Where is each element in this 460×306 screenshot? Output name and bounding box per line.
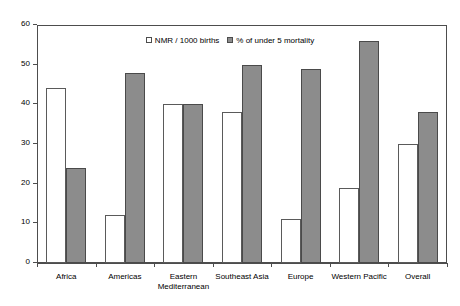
bar-nmr: [46, 88, 66, 263]
x-axis-category-label-line: Eastern: [170, 272, 198, 281]
bar-nmr: [105, 215, 125, 263]
y-tick-mark: [33, 183, 37, 184]
bar-chart: 6050403020100 AfricaAmericasEasternMedit…: [0, 0, 460, 306]
bar-nmr: [281, 219, 301, 263]
legend-label: % of under 5 mortality: [236, 35, 314, 46]
x-axis-category-label-line: Mediterranean: [148, 282, 219, 292]
y-tick-mark: [33, 24, 37, 25]
bar-nmr: [222, 112, 242, 263]
x-axis-category-label-line: Southeast Asia: [215, 272, 268, 281]
y-tick-label: 40: [21, 98, 30, 108]
chart-legend: NMR / 1000 births% of under 5 mortality: [0, 34, 460, 46]
bar-nmr: [163, 104, 183, 263]
legend-label: NMR / 1000 births: [155, 35, 219, 46]
y-tick-label: 30: [21, 138, 30, 148]
y-tick-label: 50: [21, 59, 30, 69]
y-tick-label: 0: [26, 257, 30, 267]
y-tick-label: 20: [21, 178, 30, 188]
x-axis-tick: [447, 263, 448, 267]
bar-under5: [359, 41, 379, 263]
legend-item: % of under 5 mortality: [227, 34, 314, 45]
filled-square-swatch: [227, 37, 233, 43]
x-axis-category-label-line: Africa: [56, 272, 76, 281]
x-axis-category-label: Overall: [382, 272, 453, 282]
y-tick-label: 10: [21, 217, 30, 227]
bar-under5: [418, 112, 438, 263]
y-tick-mark: [33, 103, 37, 104]
x-axis-tick: [37, 263, 38, 267]
x-axis-category-label-line: Western Pacific: [331, 272, 386, 281]
y-tick-mark: [33, 222, 37, 223]
x-axis-category-label-line: Americas: [108, 272, 141, 281]
bar-under5: [125, 73, 145, 263]
hollow-square-swatch: [146, 37, 152, 43]
x-axis-tick: [154, 263, 155, 267]
x-axis-tick: [96, 263, 97, 267]
legend-item: NMR / 1000 births: [146, 34, 219, 45]
x-axis-line: [37, 263, 447, 264]
bar-under5: [183, 104, 203, 263]
bar-under5: [66, 168, 86, 263]
x-axis-tick: [271, 263, 272, 267]
bar-under5: [301, 69, 321, 263]
x-axis-tick: [330, 263, 331, 267]
y-tick-mark: [33, 64, 37, 65]
x-axis-tick: [213, 263, 214, 267]
bar-nmr: [339, 188, 359, 263]
x-axis-category-label-line: Overall: [405, 272, 430, 281]
x-axis-tick: [388, 263, 389, 267]
bar-nmr: [398, 144, 418, 263]
bar-under5: [242, 65, 262, 263]
y-tick-label: 60: [21, 19, 30, 29]
y-tick-mark: [33, 143, 37, 144]
x-axis-category-label-line: Europe: [288, 272, 314, 281]
